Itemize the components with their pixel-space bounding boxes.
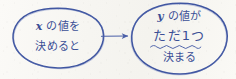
node-x-line1: x の値を <box>12 21 104 32</box>
node-y-line2-emphasized: ただ1つ <box>132 29 227 42</box>
node-y-line3: 決まる <box>132 52 227 63</box>
variable-y: y <box>157 10 164 23</box>
node-x-ellipse <box>13 8 104 69</box>
node-x-line1-text: の値を <box>43 20 81 33</box>
node-y-line1-text: の値が <box>164 10 202 23</box>
wavy-underline <box>151 46 201 49</box>
variable-x: x <box>36 20 43 33</box>
node-y-line1: y の値が <box>132 11 227 22</box>
node-x-line2: 決めると <box>12 41 104 52</box>
diagram-canvas: x の値を 決めると y の値が ただ1つ 決まる <box>0 0 236 79</box>
